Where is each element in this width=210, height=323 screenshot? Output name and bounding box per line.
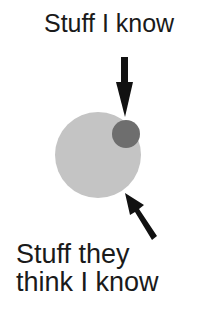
arrow-diagonal-icon: [125, 193, 157, 240]
arrow-down-icon: [116, 57, 133, 117]
small-circle-stuff-i-know: [112, 120, 140, 148]
stuff-they-think-i-know-label: Stuff they think I know: [16, 240, 159, 296]
